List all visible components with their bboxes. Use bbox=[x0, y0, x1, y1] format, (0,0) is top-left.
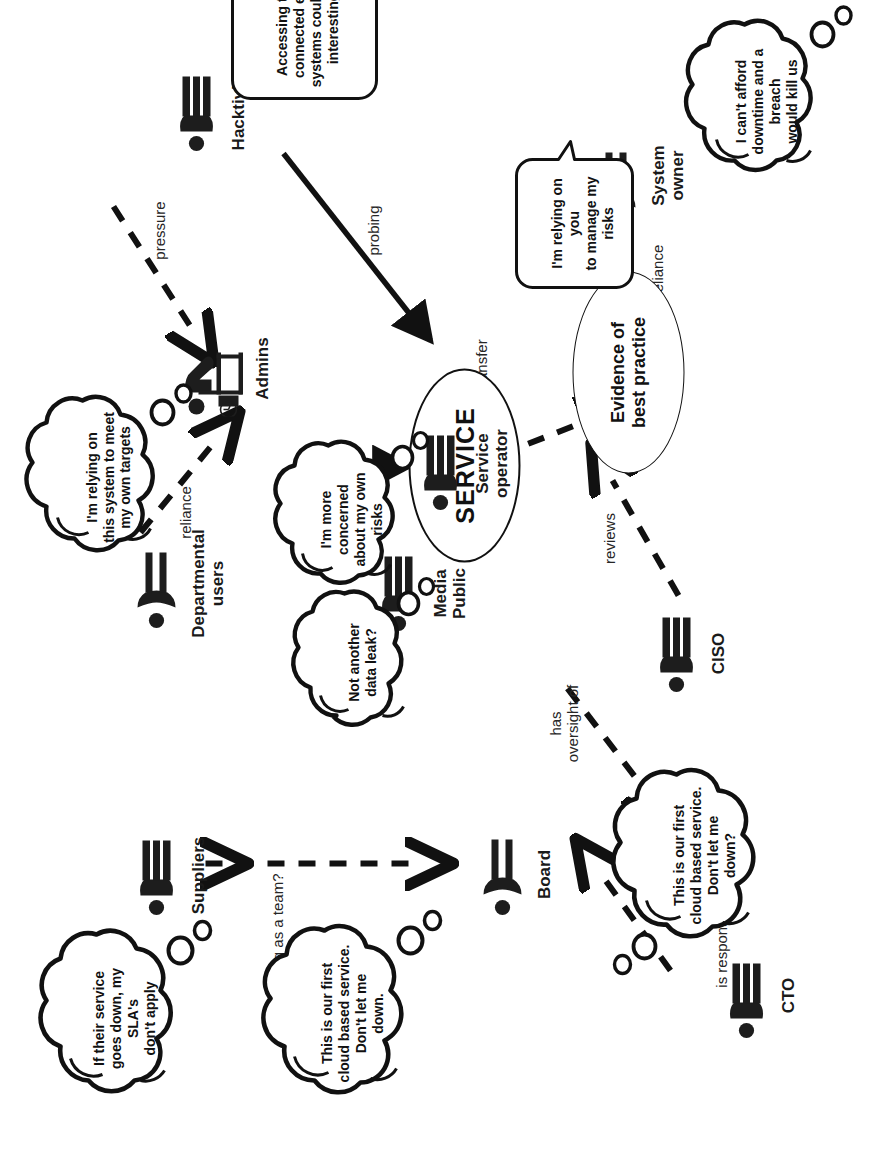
bubble-service-operator-thought: I'm more concerned about my own risks bbox=[268, 431, 438, 613]
edge-reviews bbox=[612, 480, 678, 595]
person-suppliers bbox=[130, 837, 182, 915]
thought-cloud-icon bbox=[680, 4, 858, 202]
thought-cloud-icon bbox=[36, 914, 216, 1128]
bubble-departmental-users-thought: I'm relying on this system to meet my ow… bbox=[22, 380, 198, 582]
person-male-icon bbox=[170, 73, 222, 151]
thought-cloud-icon bbox=[268, 431, 438, 613]
speech-bubble-icon bbox=[512, 133, 654, 303]
bubble-system-owner-thought: I can't afford downtime and a breach wou… bbox=[680, 4, 858, 202]
person-board bbox=[476, 835, 528, 915]
speech-bubble-icon bbox=[226, 0, 386, 116]
node-evidence-label: Evidence of best practice bbox=[607, 316, 649, 427]
label-board: Board bbox=[534, 814, 553, 934]
person-hacktivists bbox=[170, 73, 222, 151]
label-admins: Admins bbox=[252, 308, 271, 428]
edge-label-probing: probing bbox=[364, 180, 381, 280]
edge-probing bbox=[283, 153, 430, 340]
bubble-system-owner-speech: I'm relying on you to manage my risks bbox=[512, 133, 654, 303]
thought-cloud-icon bbox=[258, 906, 448, 1128]
label-ciso: CISO bbox=[708, 598, 727, 708]
thought-cloud-icon bbox=[604, 754, 798, 976]
bubble-suppliers-thought: If their service goes down, my SLA's don… bbox=[36, 914, 216, 1128]
person-female-icon bbox=[476, 835, 528, 915]
bubble-cto-thought: This is our first cloud based service. D… bbox=[604, 754, 798, 976]
diagram-canvas: working as a team? is responsible to has… bbox=[0, 0, 871, 1158]
bubble-board-thought: This is our first cloud based service. D… bbox=[258, 906, 448, 1128]
person-ciso bbox=[650, 614, 702, 692]
diagram-page: working as a team? is responsible to has… bbox=[0, 0, 871, 1158]
person-male-icon bbox=[650, 614, 702, 692]
edge-label-reviews: reviews bbox=[600, 493, 617, 583]
edge-label-pressure: pressure bbox=[150, 180, 167, 280]
label-service-operator: Service operator bbox=[472, 398, 510, 528]
thought-cloud-icon bbox=[22, 380, 198, 582]
person-male-icon bbox=[130, 837, 182, 915]
edge-label-has-oversight-of: has oversight of bbox=[546, 668, 581, 778]
bubble-hacktivists-speech: Accessing the connected end systems coul… bbox=[226, 0, 386, 116]
